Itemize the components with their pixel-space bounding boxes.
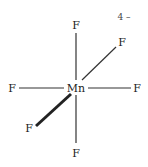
ligand-left-label: F bbox=[8, 82, 16, 95]
ligand-lower-left-label: F bbox=[25, 122, 33, 135]
bond-lower-left-wedge bbox=[36, 94, 71, 126]
ligand-right-label: F bbox=[133, 82, 141, 95]
central-atom-label: Mn bbox=[67, 82, 85, 95]
ligand-bottom-label: F bbox=[72, 147, 80, 160]
ligand-upper-right-label: F bbox=[118, 36, 126, 49]
ion-charge-label: 4 – bbox=[117, 12, 131, 22]
ligand-top-label: F bbox=[72, 19, 80, 32]
bond-upper-right bbox=[82, 47, 116, 80]
octahedral-structure: Mn F F F F F F 4 – bbox=[0, 0, 148, 167]
